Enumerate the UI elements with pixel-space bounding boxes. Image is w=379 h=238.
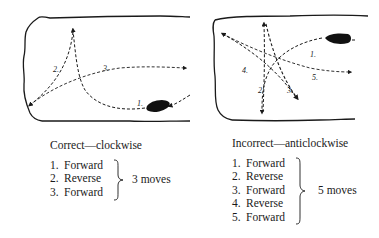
left-label-3: 3. — [102, 64, 109, 73]
step-label: Reverse — [246, 197, 283, 211]
step-label: Forward — [64, 159, 103, 173]
step-number: 5. — [232, 211, 246, 225]
right-step: 4. Reverse — [232, 197, 348, 211]
left-label-1: 1. — [137, 99, 143, 108]
left-move-count: 3 moves — [132, 173, 171, 187]
left-approach-path — [170, 95, 190, 106]
left-caption: Correct—clockwise — [50, 139, 142, 153]
right-road-diagram: 1. 2. 3. 4. 5. — [213, 15, 368, 121]
left-step: 3. Forward — [50, 186, 142, 200]
step-label: Forward — [246, 157, 285, 171]
left-panel-text: Correct—clockwise 1. Forward 2. Reverse … — [50, 139, 142, 199]
left-label-2: 2. — [53, 65, 59, 74]
right-label-2: 2. — [258, 86, 264, 95]
turning-diagrams: 1. 2. 3. 1. 2. 3. 4. 5. — [0, 0, 379, 130]
right-step: 2. Reverse — [232, 170, 348, 184]
step-number: 4. — [232, 197, 246, 211]
step-label: Forward — [246, 211, 285, 225]
step-number: 1. — [50, 159, 64, 173]
step-label: Reverse — [64, 172, 101, 186]
right-road-edge-left — [213, 20, 232, 120]
left-car — [145, 98, 171, 114]
right-steps-list: 1. Forward 2. Reverse 3. Forward 4. Reve… — [232, 157, 348, 225]
right-move-count: 5 moves — [318, 184, 357, 198]
right-label-5: 5. — [312, 73, 318, 82]
right-label-4: 4. — [242, 66, 248, 75]
right-label-3: 3. — [286, 86, 293, 95]
right-road-edge-top — [215, 15, 368, 20]
right-label-1: 1. — [310, 50, 316, 59]
left-step: 2. Reverse — [50, 172, 142, 186]
left-road-edge-top — [38, 16, 190, 18]
right-brace-icon — [294, 157, 308, 225]
left-step: 1. Forward — [50, 159, 142, 173]
left-road-diagram: 1. 2. 3. — [23, 16, 190, 121]
right-car — [325, 33, 351, 43]
right-step: 5. Forward — [232, 211, 348, 225]
step-number: 2. — [232, 170, 246, 184]
left-road-edge-left — [23, 18, 42, 121]
step-label: Forward — [246, 184, 285, 198]
right-move-2-path — [263, 24, 264, 112]
step-number: 3. — [50, 186, 64, 200]
right-road-edge-bottom — [232, 119, 355, 121]
left-steps-list: 1. Forward 2. Reverse 3. Forward 3 moves — [50, 159, 142, 200]
left-brace-icon — [112, 159, 126, 201]
step-number: 1. — [232, 157, 246, 171]
left-move-2-path — [30, 32, 73, 105]
right-step: 1. Forward — [232, 157, 348, 171]
right-caption: Incorrect—anticlockwise — [232, 137, 348, 151]
step-label: Forward — [64, 186, 103, 200]
step-label: Reverse — [246, 170, 283, 184]
right-panel-text: Incorrect—anticlockwise 1. Forward 2. Re… — [232, 137, 348, 224]
step-number: 3. — [232, 184, 246, 198]
step-number: 2. — [50, 172, 64, 186]
